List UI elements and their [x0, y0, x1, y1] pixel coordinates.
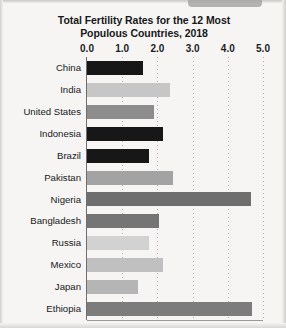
x-axis-tick-label: 5.0 — [256, 43, 270, 54]
category-label: Bangladesh — [30, 210, 81, 232]
category-label: Ethiopia — [46, 298, 81, 320]
page-edge-bottom — [0, 323, 286, 328]
x-axis-tick-labels: 0.01.02.03.04.05.0 — [0, 43, 286, 56]
chart-title-line-2: Populous Countries, 2018 — [18, 27, 270, 40]
category-label: United States — [23, 101, 81, 123]
x-axis-tick-label: 4.0 — [221, 43, 235, 54]
category-label: Russia — [52, 232, 81, 254]
bar — [87, 192, 251, 206]
bar — [87, 105, 154, 119]
bar-row: Pakistan — [87, 167, 263, 189]
gridline — [263, 57, 264, 320]
x-axis-tick-label: 3.0 — [186, 43, 200, 54]
bar — [87, 302, 252, 316]
chart-title-line-1: Total Fertility Rates for the 12 Most — [18, 14, 270, 27]
category-label: Pakistan — [44, 167, 81, 189]
x-axis-rule — [87, 320, 263, 321]
bar — [87, 236, 149, 250]
bar-row: China — [87, 57, 263, 79]
bar — [87, 280, 138, 294]
bar — [87, 61, 143, 75]
bar-row: Bangladesh — [87, 210, 263, 232]
x-axis-tick-label: 2.0 — [150, 43, 164, 54]
category-label: India — [60, 79, 81, 101]
category-label: Nigeria — [51, 189, 81, 211]
chart-page: Total Fertility Rates for the 12 Most Po… — [0, 0, 286, 328]
category-label: China — [56, 57, 81, 79]
bar-row: India — [87, 79, 263, 101]
bar — [87, 127, 163, 141]
bar-row: Russia — [87, 232, 263, 254]
bar — [87, 83, 170, 97]
scan-artifact — [188, 0, 262, 7]
category-label: Japan — [55, 276, 81, 298]
x-axis-tick-label: 0.0 — [80, 43, 94, 54]
category-label: Mexico — [51, 254, 81, 276]
bar-row: Indonesia — [87, 123, 263, 145]
chart-title: Total Fertility Rates for the 12 Most Po… — [18, 14, 270, 39]
bar-row: Mexico — [87, 254, 263, 276]
bar-row: Ethiopia — [87, 298, 263, 320]
category-label: Indonesia — [39, 123, 81, 145]
bar — [87, 171, 173, 185]
bar-row: Brazil — [87, 145, 263, 167]
bar-row: Nigeria — [87, 189, 263, 211]
bar-row: United States — [87, 101, 263, 123]
bar — [87, 214, 159, 228]
x-axis-tick-label: 1.0 — [115, 43, 129, 54]
category-label: Brazil — [57, 145, 81, 167]
bar — [87, 258, 163, 272]
plot-area: ChinaIndiaUnited StatesIndonesiaBrazilPa… — [87, 57, 263, 320]
bar-row: Japan — [87, 276, 263, 298]
bar — [87, 149, 149, 163]
